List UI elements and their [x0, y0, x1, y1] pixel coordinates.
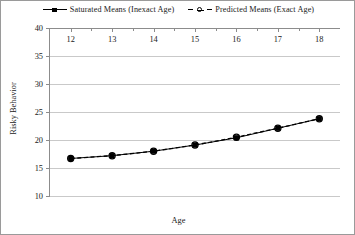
gridline — [50, 196, 340, 197]
series-line-2 — [71, 119, 320, 159]
series-layer — [50, 28, 340, 196]
legend-entry-saturated-means: Saturated Means (Inexact Age) — [43, 4, 175, 15]
legend-marker-dashed-circle-icon — [188, 5, 212, 14]
legend-label-saturated-means: Saturated Means (Inexact Age) — [70, 4, 175, 15]
chart-figure: Saturated Means (Inexact Age) Predicted … — [0, 0, 355, 235]
y-axis-title: Risky Behavior — [9, 64, 18, 154]
chart-legend: Saturated Means (Inexact Age) Predicted … — [1, 4, 355, 15]
legend-marker-solid-square-icon — [43, 5, 67, 14]
x-axis-title: Age — [1, 216, 355, 225]
plot-area: 10152025303540 12131415161718 — [49, 28, 340, 197]
y-axis-tick-label: 40 — [35, 24, 43, 33]
y-axis-tick — [46, 196, 50, 197]
series-line-1 — [71, 119, 320, 159]
y-axis-tick-label: 25 — [35, 108, 43, 117]
legend-entry-predicted-means: Predicted Means (Exact Age) — [188, 4, 314, 15]
y-axis-tick-label: 20 — [35, 136, 43, 145]
y-axis-tick-label: 35 — [35, 52, 43, 61]
y-axis-tick-label: 15 — [35, 164, 43, 173]
legend-label-predicted-means: Predicted Means (Exact Age) — [215, 4, 314, 15]
y-axis-tick-label: 10 — [35, 192, 43, 201]
y-axis-tick-label: 30 — [35, 80, 43, 89]
